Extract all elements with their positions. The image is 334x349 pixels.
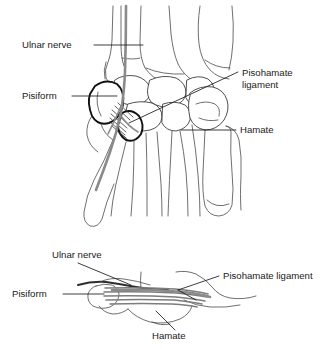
label-pisohamate-ligament-upper: Pisohamate (242, 67, 293, 78)
anatomical-figure: Ulnar nerve Pisiform Pisohamate ligament… (0, 0, 334, 349)
radius-bone-medial (169, 6, 192, 80)
tendon-stub (141, 272, 142, 289)
pisiform-lateral-detail (99, 306, 128, 314)
thumb-head-contour (207, 200, 229, 206)
hamate-bone (189, 87, 229, 130)
label-hamate-upper: Hamate (240, 124, 274, 135)
label-pisohamate-ligament-upper-line2: ligament (242, 79, 279, 90)
trapezium-ridge (205, 60, 230, 68)
label-ulnar-nerve-lower: Ulnar nerve (52, 249, 102, 260)
fifth-metacarpal-edge (111, 142, 126, 216)
upper-panel-drawing (84, 6, 241, 226)
radius-bone-lateral (140, 6, 163, 82)
first-metacarpal (203, 126, 233, 216)
label-ulnar-nerve-upper: Ulnar nerve (22, 39, 72, 50)
label-hamate-lower: Hamate (152, 330, 186, 341)
lower-panel-labels: Ulnar nerve Pisohamate ligament Pisiform… (12, 249, 313, 341)
first-metacarpal-base (226, 126, 241, 210)
ulna-bone-medial (121, 6, 124, 66)
third-metacarpal (157, 132, 162, 216)
pisiform-bone (89, 81, 124, 123)
second-metacarpal-edge (192, 125, 200, 216)
label-pisiform-lower: Pisiform (12, 288, 47, 299)
trapezium-outline (229, 6, 233, 70)
lunate-bone (147, 76, 186, 107)
fourth-metacarpal-edge (146, 133, 147, 216)
leader-hamate-lower (156, 311, 175, 330)
third-metacarpal-edge (168, 131, 172, 216)
label-pisohamate-ligament-lower: Pisohamate ligament (223, 270, 313, 281)
trapezoid-bone (162, 102, 190, 131)
fourth-metacarpal (131, 140, 134, 216)
second-metacarpal (180, 131, 188, 216)
radius-distal-articular (146, 68, 184, 74)
anatomy-illustration: Ulnar nerve Pisiform Pisohamate ligament… (0, 0, 334, 349)
label-pisiform-upper: Pisiform (22, 90, 57, 101)
